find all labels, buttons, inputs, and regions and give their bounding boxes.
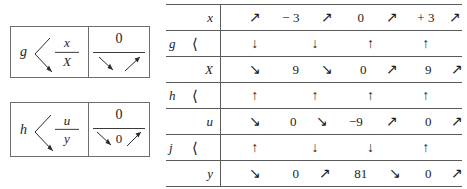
- table-value: −9: [349, 114, 363, 130]
- row-bracket-icon: ⟨: [192, 138, 198, 156]
- row-token-track: ↑↓↓↑: [221, 135, 462, 160]
- arrow-up-right-icon: ↗: [451, 63, 463, 77]
- row-token-track: ↘0↘−9↗0↗: [221, 109, 462, 134]
- table-value: 0: [425, 114, 432, 130]
- row-label-cell: x: [166, 5, 221, 31]
- table-row: X↘9↘0↗9↗: [166, 57, 462, 83]
- row-data-cell: ↑↑↑↑: [221, 83, 463, 109]
- arrow-up-right-icon: ↗: [451, 167, 463, 181]
- arrow-down-icon: ↓: [311, 37, 318, 51]
- table-value: + 3: [417, 10, 434, 26]
- table-row: u↘0↘−9↗0↗: [166, 109, 462, 135]
- arrow-down-icon: ↓: [251, 37, 258, 51]
- row-variable-label: X: [205, 62, 213, 78]
- arrow-up-icon: ↑: [422, 141, 429, 155]
- row-token-track: ↘0↗81↘0↗: [221, 161, 462, 186]
- row-label-cell: j⟨: [166, 135, 221, 161]
- row-token-track: ↑↑↑↑: [221, 83, 462, 108]
- row-variable-label: u: [207, 114, 214, 130]
- table-row: g⟨↓↓↑↑: [166, 31, 462, 57]
- figure-canvas: g x X 0: [0, 0, 467, 189]
- variation-table-body: x↗− 3↗0↗+ 3↗g⟨↓↓↑↑X↘9↘0↗9↗h⟨↑↑↑↑u↘0↘−9↗0…: [166, 5, 462, 187]
- fraction-denominator: X: [55, 54, 79, 69]
- box-g-rule: [93, 52, 145, 53]
- arrow-down-right-icon: ↘: [389, 167, 401, 181]
- left-diagram-column: g x X 0: [0, 0, 160, 189]
- row-label-cell: h⟨: [166, 83, 221, 109]
- row-bracket-icon: ⟨: [192, 86, 198, 104]
- table-value: 0: [425, 166, 432, 182]
- row-label-cell: y: [166, 161, 221, 187]
- row-label-cell: u: [166, 109, 221, 135]
- fraction-bar: [55, 129, 79, 130]
- arrow-up-icon: ↑: [367, 89, 374, 103]
- row-data-cell: ↓↓↑↑: [221, 31, 463, 57]
- composition-box-h-right-cell: 0 0: [89, 103, 149, 156]
- row-function-label: h: [169, 88, 176, 104]
- row-function-label: g: [169, 36, 176, 52]
- arrow-up-icon: ↑: [311, 89, 318, 103]
- arrow-up-right-icon: ↗: [386, 63, 398, 77]
- composition-box-g-left-cell: g x X: [11, 27, 89, 77]
- row-data-cell: ↑↓↓↑: [221, 135, 463, 161]
- row-data-cell: ↘0↘−9↗0↗: [221, 109, 463, 135]
- row-token-track: ↓↓↑↑: [221, 31, 462, 56]
- arrow-down-icon: ↓: [367, 141, 374, 155]
- arrow-down-right-icon: ↘: [249, 63, 261, 77]
- box-h-mid-zero-value: 0: [116, 131, 123, 147]
- box-h-zero-value: 0: [89, 107, 149, 123]
- composition-box-g-right-cell: 0: [89, 27, 149, 77]
- fraction-x-over-X: x X: [55, 36, 79, 68]
- table-value: 0: [292, 166, 299, 182]
- arrow-down-right-icon: ↘: [321, 63, 333, 77]
- arrow-up-right-icon: ↗: [249, 11, 261, 25]
- arrow-up-icon: ↑: [422, 37, 429, 51]
- row-label-cell: X: [166, 57, 221, 83]
- arrow-down-icon: ↓: [311, 141, 318, 155]
- row-token-track: ↘9↘0↗9↗: [221, 57, 462, 82]
- row-data-cell: ↗− 3↗0↗+ 3↗: [221, 5, 463, 31]
- arrow-up-right-icon: ↗: [449, 11, 461, 25]
- arrow-down-right-icon: ↘: [316, 115, 328, 129]
- arrow-up-right-icon: ↗: [319, 167, 331, 181]
- row-label-cell: g⟨: [166, 31, 221, 57]
- table-value: 81: [354, 166, 367, 182]
- fraction-numerator: u: [55, 113, 79, 128]
- table-value: 0: [358, 10, 365, 26]
- row-function-label: j: [169, 140, 173, 156]
- table-value: 0: [290, 114, 297, 130]
- row-variable-label: x: [207, 10, 213, 26]
- variation-table: x↗− 3↗0↗+ 3↗g⟨↓↓↑↑X↘9↘0↗9↗h⟨↑↑↑↑u↘0↘−9↗0…: [166, 4, 462, 187]
- function-label-h: h: [20, 123, 27, 137]
- table-value: 0: [360, 62, 367, 78]
- arrow-up-right-icon: ↗: [451, 115, 463, 129]
- row-token-track: ↗− 3↗0↗+ 3↗: [221, 5, 462, 30]
- arrow-up-right-icon: ↗: [386, 115, 398, 129]
- fraction-numerator: x: [55, 36, 79, 51]
- arrow-up-icon: ↑: [251, 89, 258, 103]
- row-variable-label: y: [207, 166, 213, 182]
- fraction-bar: [55, 52, 79, 53]
- row-bracket-icon: ⟨: [192, 34, 198, 52]
- table-value: 9: [425, 62, 432, 78]
- fraction-denominator: y: [55, 131, 79, 146]
- arrow-up-right-icon: ↗: [321, 11, 333, 25]
- table-row: x↗− 3↗0↗+ 3↗: [166, 5, 462, 31]
- table-value: 9: [292, 62, 299, 78]
- arrow-up-icon: ↑: [422, 89, 429, 103]
- box-g-zero-value: 0: [89, 31, 149, 47]
- function-label-g: g: [20, 45, 27, 59]
- table-row: j⟨↑↓↓↑: [166, 135, 462, 161]
- arrow-down-right-icon: ↘: [249, 167, 261, 181]
- fraction-u-over-y: u y: [55, 113, 79, 145]
- table-row: y↘0↗81↘0↗: [166, 161, 462, 187]
- arrow-up-icon: ↑: [251, 141, 258, 155]
- arrow-up-icon: ↑: [367, 37, 374, 51]
- row-data-cell: ↘0↗81↘0↗: [221, 161, 463, 187]
- table-row: h⟨↑↑↑↑: [166, 83, 462, 109]
- arrow-up-right-icon: ↗: [386, 11, 398, 25]
- box-h-rule: [93, 128, 145, 129]
- composition-box-h: h u y 0 0: [10, 102, 150, 157]
- arrow-down-right-icon: ↘: [249, 115, 261, 129]
- row-data-cell: ↘9↘0↗9↗: [221, 57, 463, 83]
